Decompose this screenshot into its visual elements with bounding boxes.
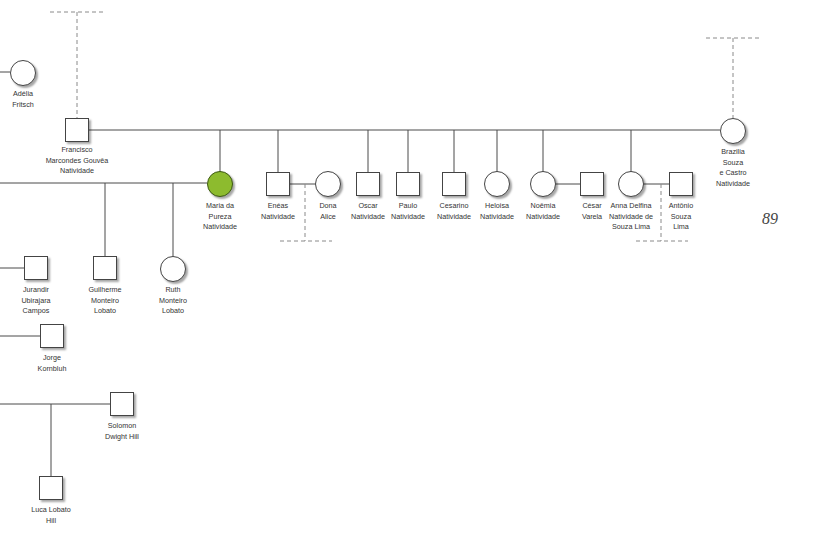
person-adelia[interactable] [10,60,36,86]
page-number: 89 [762,210,778,228]
person-jorge[interactable] [40,324,64,348]
person-heloisa[interactable] [484,171,510,197]
person-francisco[interactable] [65,118,89,142]
person-maria-highlighted[interactable] [207,171,233,197]
person-cesar[interactable] [580,172,604,196]
person-antonio[interactable] [669,172,693,196]
label-francisco: Francisco Marcondes Gouvêa Natividade [22,145,132,177]
person-paulo[interactable] [396,172,420,196]
person-noemia[interactable] [530,171,556,197]
person-solomon[interactable] [110,392,134,416]
label-antonio: Antônio Souza Lima [626,201,736,233]
label-luca: Luca Lobato Hill [0,505,106,526]
label-adelia: Adélia Fritsch [0,89,78,110]
person-brazilia[interactable] [720,118,746,144]
person-oscar[interactable] [356,172,380,196]
label-ruth: Ruth Monteiro Lobato [118,285,228,317]
person-eneas[interactable] [266,172,290,196]
label-brazilia: Brazilia Souza e Castro Natividade [678,147,788,189]
person-luca[interactable] [39,476,63,500]
person-dona-alice[interactable] [315,171,341,197]
person-anna[interactable] [618,171,644,197]
label-solomon: Solomon Dwight Hill [67,421,177,442]
label-jorge: Jorge Kornbluh [0,353,107,374]
person-ruth[interactable] [160,256,186,282]
person-cesarino[interactable] [442,172,466,196]
person-jurandir[interactable] [24,256,48,280]
family-tree-lines [0,0,827,540]
person-guilherme[interactable] [93,256,117,280]
